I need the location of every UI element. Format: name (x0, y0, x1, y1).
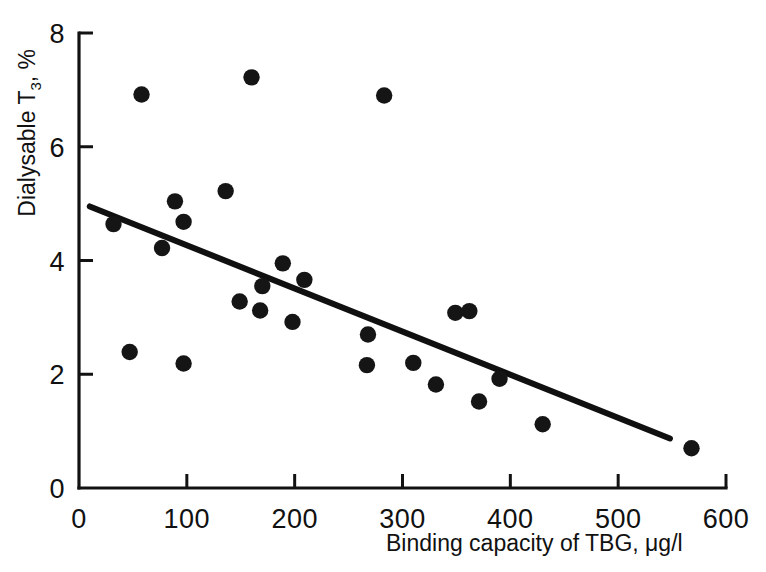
x-tick-label-200: 200 (271, 504, 318, 534)
data-point (360, 326, 376, 342)
data-point (243, 69, 259, 85)
x-axis-label: Binding capacity of TBG, μg/l (386, 530, 683, 557)
x-axis-label-units: μg/l (645, 530, 683, 556)
tick-labels-group: 024680100200300400500600 (49, 19, 749, 534)
data-point (471, 393, 487, 409)
y-tick-label-8: 8 (49, 19, 65, 49)
y-tick-label-4: 4 (49, 247, 65, 277)
data-point (376, 87, 392, 103)
data-point (217, 183, 233, 199)
y-axis-label: Dialysable T3, % (14, 18, 44, 248)
data-point (359, 357, 375, 373)
y-axis-label-suffix: , % (14, 49, 40, 82)
data-point (296, 272, 312, 288)
scatter-plot-svg: 024680100200300400500600 (0, 0, 766, 572)
data-point (683, 440, 699, 456)
y-axis-label-subscript: 3 (27, 82, 44, 90)
regression-line (90, 206, 670, 438)
y-tick-label-2: 2 (49, 360, 65, 390)
data-point (284, 314, 300, 330)
data-point (275, 255, 291, 271)
data-point (428, 376, 444, 392)
data-point (175, 214, 191, 230)
data-point (167, 193, 183, 209)
data-point (105, 216, 121, 232)
data-point (121, 344, 137, 360)
data-point (231, 293, 247, 309)
data-point (405, 355, 421, 371)
data-point (175, 355, 191, 371)
x-axis-label-text: Binding capacity of TBG, (386, 530, 645, 556)
y-tick-label-0: 0 (49, 474, 65, 504)
data-point (491, 371, 507, 387)
data-point (133, 86, 149, 102)
data-point (461, 303, 477, 319)
x-tick-label-600: 600 (703, 504, 750, 534)
y-axis-label-text: Dialysable T (14, 91, 40, 217)
data-point (534, 416, 550, 432)
chart-figure: 024680100200300400500600 Dialysable T3, … (0, 0, 766, 572)
data-point (447, 305, 463, 321)
data-point (154, 240, 170, 256)
y-tick-label-6: 6 (49, 133, 65, 163)
data-points-group (105, 69, 699, 456)
x-tick-label-0: 0 (71, 504, 87, 534)
x-tick-label-100: 100 (164, 504, 211, 534)
data-point (252, 302, 268, 318)
data-point (254, 278, 270, 294)
regression-line-segment (90, 206, 670, 438)
